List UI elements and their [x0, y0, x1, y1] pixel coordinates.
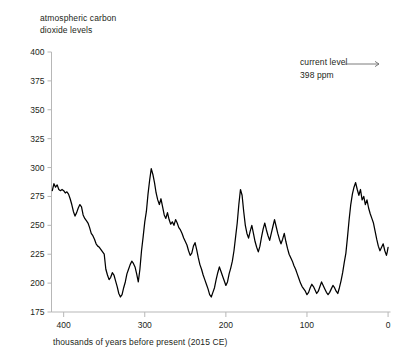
y-axis-tick-label: 350	[30, 105, 44, 115]
x-axis-tick-label: 100	[300, 320, 314, 330]
y-axis-tick-label: 250	[30, 220, 44, 230]
data-series-group	[52, 169, 388, 297]
y-axis-tick-label: 400	[30, 47, 44, 57]
y-axis-tick-label: 375	[30, 76, 44, 86]
y-axis-tick-label: 225	[30, 249, 44, 259]
x-axis-tick-label: 200	[219, 320, 233, 330]
y-axis-tick-label: 300	[30, 163, 44, 173]
x-axis-tick-label: 0	[386, 320, 391, 330]
co2-line-series	[52, 169, 388, 297]
chart-plot-area: 400375350325300275250225200175 400300200…	[0, 0, 408, 361]
x-axis-tick-label: 400	[57, 320, 71, 330]
x-axis: 4003002001000	[52, 312, 391, 330]
y-axis-tick-label: 175	[30, 307, 44, 317]
y-axis-tick-label: 200	[30, 278, 44, 288]
x-axis-tick-label: 300	[138, 320, 152, 330]
co2-chart: atmospheric carbon dioxide levels curren…	[0, 0, 408, 361]
y-axis: 400375350325300275250225200175	[30, 47, 51, 317]
y-axis-tick-label: 275	[30, 191, 44, 201]
annotation-arrow-group	[345, 61, 379, 66]
y-axis-tick-label: 325	[30, 134, 44, 144]
